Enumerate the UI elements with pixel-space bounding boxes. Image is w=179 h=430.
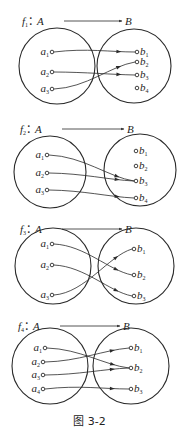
element-dot-a2 bbox=[45, 171, 49, 175]
mapping-arrow-a4-b3 bbox=[45, 387, 129, 389]
element-dot-a1 bbox=[50, 50, 54, 54]
element-dot-b2 bbox=[134, 164, 138, 168]
element-dot-a2 bbox=[50, 263, 54, 267]
element-dot-a4 bbox=[41, 387, 45, 391]
element-dot-b3 bbox=[134, 179, 138, 183]
element-label-a3: a3 bbox=[41, 82, 50, 95]
set-a-circle bbox=[12, 328, 88, 404]
codomain-label: B bbox=[123, 320, 130, 332]
element-dot-b2 bbox=[132, 273, 136, 277]
codomain-label: B bbox=[127, 123, 134, 135]
element-label-b2: b2 bbox=[134, 361, 143, 374]
element-label-a1: a1 bbox=[36, 148, 45, 161]
element-dot-a1 bbox=[43, 346, 47, 350]
element-label-b2: b2 bbox=[139, 159, 148, 172]
element-label-a3: a3 bbox=[36, 183, 45, 196]
element-label-b4: b4 bbox=[139, 191, 148, 204]
mapping-diagram-f3: f3：ABa1a2a3b1b2b3 bbox=[15, 223, 174, 304]
element-dot-b4 bbox=[135, 86, 139, 90]
element-dot-b1 bbox=[134, 149, 138, 153]
codomain-label: B bbox=[125, 15, 132, 27]
element-label-a3: a3 bbox=[41, 288, 50, 301]
mapping-arrow-a1-b2 bbox=[54, 244, 132, 275]
element-label-b3: b3 bbox=[137, 289, 146, 302]
element-label-a1: a1 bbox=[41, 237, 50, 250]
arrowhead-icon bbox=[115, 178, 120, 182]
element-dot-b1 bbox=[132, 247, 136, 251]
mapping-figure: f1：ABa1a2a3b1b2b3b4f2：ABa1a2a3b1b2b3b4f3… bbox=[0, 0, 179, 430]
element-dot-b3 bbox=[132, 294, 136, 298]
function-label: f4：A bbox=[18, 320, 40, 333]
figure-caption: 图 3-2 bbox=[0, 412, 179, 428]
element-dot-a1 bbox=[50, 242, 54, 246]
element-dot-b2 bbox=[129, 366, 133, 370]
arrowhead-icon bbox=[110, 367, 115, 371]
element-label-a2: a2 bbox=[41, 65, 50, 78]
mapping-arrow-a1-b1 bbox=[54, 50, 135, 52]
arrowhead-icon bbox=[113, 288, 119, 293]
element-dot-b1 bbox=[135, 50, 139, 54]
arrowhead-icon bbox=[113, 267, 119, 272]
mapping-diagram-f2: f2：ABa1a2a3b1b2b3b4 bbox=[14, 123, 176, 208]
element-label-b2: b2 bbox=[137, 268, 146, 281]
element-dot-a1 bbox=[45, 153, 49, 157]
element-label-b1: b1 bbox=[134, 341, 143, 354]
element-dot-a3 bbox=[50, 293, 54, 297]
element-label-a1: a1 bbox=[41, 45, 50, 58]
element-dot-a3 bbox=[50, 87, 54, 91]
set-a-circle bbox=[14, 136, 86, 208]
element-label-a2: a2 bbox=[41, 258, 50, 271]
set-a-circle bbox=[19, 28, 95, 104]
element-label-b4: b4 bbox=[140, 81, 149, 94]
element-label-b3: b3 bbox=[140, 68, 149, 81]
element-label-b3: b3 bbox=[134, 382, 143, 395]
element-dot-a2 bbox=[41, 360, 45, 364]
arrowhead-icon bbox=[110, 362, 116, 367]
arrowhead-icon bbox=[110, 387, 115, 391]
mapping-arrow-a2-b3 bbox=[54, 265, 132, 296]
set-b-circle bbox=[97, 29, 171, 103]
mapping-diagram-f1: f1：ABa1a2a3b1b2b3b4 bbox=[19, 15, 171, 104]
element-label-a2: a2 bbox=[32, 355, 41, 368]
mapping-arrow-a3-b1 bbox=[54, 249, 132, 295]
mapping-arrow-a3-b4 bbox=[49, 190, 134, 198]
element-dot-a3 bbox=[45, 188, 49, 192]
mapping-arrow-a2-b3 bbox=[49, 173, 134, 181]
element-dot-b4 bbox=[134, 196, 138, 200]
element-label-b3: b3 bbox=[139, 174, 148, 187]
element-dot-b1 bbox=[129, 346, 133, 350]
element-label-b1: b1 bbox=[137, 242, 146, 255]
element-dot-a3 bbox=[41, 373, 45, 377]
diagrams-group: f1：ABa1a2a3b1b2b3b4f2：ABa1a2a3b1b2b3b4f3… bbox=[12, 15, 176, 404]
mapping-arrow-a1-b3 bbox=[49, 155, 134, 181]
element-dot-b2 bbox=[135, 60, 139, 64]
function-label: f2：A bbox=[20, 123, 42, 136]
element-label-a2: a2 bbox=[36, 166, 45, 179]
arrowhead-icon bbox=[116, 50, 121, 54]
arrowhead-icon bbox=[116, 64, 122, 69]
element-label-a4: a4 bbox=[32, 382, 41, 395]
element-dot-a2 bbox=[50, 70, 54, 74]
mapping-diagram-f4: f4：ABa1a2a3a4b1b2b3 bbox=[12, 320, 169, 404]
element-dot-b3 bbox=[135, 73, 139, 77]
function-label: f1：A bbox=[22, 15, 44, 28]
element-label-a1: a1 bbox=[34, 341, 43, 354]
element-dot-b3 bbox=[129, 387, 133, 391]
function-label: f3：A bbox=[20, 223, 42, 236]
arrowhead-icon bbox=[116, 73, 121, 77]
element-label-b1: b1 bbox=[139, 144, 148, 157]
element-label-a3: a3 bbox=[32, 368, 41, 381]
